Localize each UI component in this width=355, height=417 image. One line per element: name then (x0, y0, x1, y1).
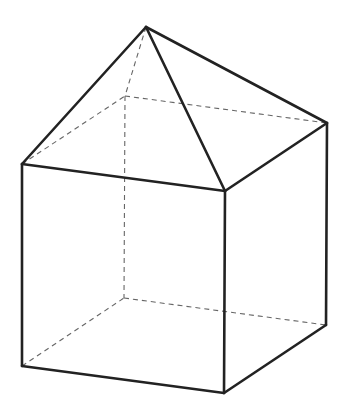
solid-edge-top-front-left-to-top-front-right (22, 164, 225, 191)
solid-edge-top-front-right-to-top-back-right (225, 123, 327, 191)
solid-edge-apex-to-top-front-left (22, 27, 146, 164)
hidden-edge-bottom-front-left-to-bottom-back-left (22, 298, 124, 366)
hidden-edge-top-back-left-to-bottom-back-left (124, 96, 125, 298)
solid-edge-apex-to-top-back-right (146, 27, 327, 123)
hidden-edge-top-back-left-to-top-back-right (125, 96, 327, 123)
cube-with-pyramid-diagram (0, 0, 355, 417)
solid-edge-apex-to-top-front-right (146, 27, 225, 191)
visible-edges-group (22, 27, 327, 393)
solid-edge-top-back-right-to-bottom-back-right (326, 123, 327, 325)
solid-edge-bottom-front-left-to-bottom-front-right (22, 366, 224, 393)
hidden-edges-group (22, 27, 327, 366)
solid-edge-bottom-front-right-to-bottom-back-right (224, 325, 326, 393)
solid-edge-top-front-right-to-bottom-front-right (224, 191, 225, 393)
